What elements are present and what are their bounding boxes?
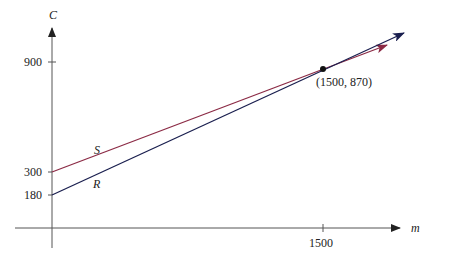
y-axis-label: C <box>49 8 58 22</box>
intersection-label: (1500, 870) <box>316 75 372 89</box>
series-r-label: R <box>92 177 101 191</box>
x-axis-label: m <box>411 221 420 235</box>
tick-label-180: 180 <box>24 188 42 202</box>
tick-label-300: 300 <box>24 165 42 179</box>
series-r-line <box>52 33 404 195</box>
intersection-point <box>320 66 326 72</box>
tick-label-900: 900 <box>24 55 42 69</box>
series-s-label: S <box>94 143 100 157</box>
break-even-chart: C m 900 300 180 1500 S R (1500, 870) <box>0 0 449 261</box>
tick-label-1500: 1500 <box>309 236 333 250</box>
